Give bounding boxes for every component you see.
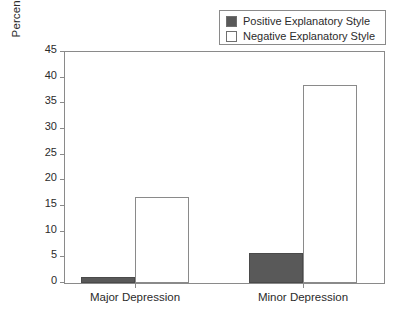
- chart-legend: Positive Explanatory Style Negative Expl…: [219, 10, 386, 45]
- y-axis-title-text: Percent Experiencing Depression: [8, 0, 24, 67]
- x-axis-label-minor-depression: Minor Depression: [233, 291, 373, 304]
- bar-positive-major-depression: [81, 277, 135, 283]
- legend-label-negative: Negative Explanatory Style: [243, 30, 375, 42]
- y-axis-tick-label: 10: [45, 224, 57, 235]
- legend-item-negative: Negative Explanatory Style: [226, 29, 381, 43]
- y-axis-tick-mark: [60, 128, 65, 129]
- x-axis-label-major-depression: Major Depression: [65, 291, 205, 304]
- y-axis-tick-mark: [60, 179, 65, 180]
- y-axis-tick-label: 30: [45, 121, 57, 132]
- y-axis-tick-mark: [60, 256, 65, 257]
- y-axis-tick-mark: [60, 51, 65, 52]
- y-axis-tick-label: 15: [45, 198, 57, 209]
- y-axis-tick-label: 5: [51, 249, 57, 260]
- y-axis-tick-label: 35: [45, 95, 57, 106]
- y-axis-tick-label: 45: [45, 44, 57, 55]
- y-axis-tick-mark: [60, 205, 65, 206]
- y-axis-tick-mark: [60, 102, 65, 103]
- y-axis-tick-label: 25: [45, 147, 57, 158]
- plot-frame: 051015202530354045: [64, 51, 385, 284]
- x-axis-tick-mark: [135, 283, 136, 288]
- bar-negative-minor-depression: [303, 85, 357, 283]
- legend-item-positive: Positive Explanatory Style: [226, 14, 381, 28]
- y-axis-tick-mark: [60, 77, 65, 78]
- open-white-swatch-icon: [226, 31, 237, 42]
- legend-label-positive: Positive Explanatory Style: [243, 15, 370, 27]
- bar-chart-figure: Positive Explanatory Style Negative Expl…: [0, 0, 399, 314]
- y-axis-tick-label: 0: [51, 275, 57, 286]
- y-axis-title: Percent Experiencing Depression: [8, 0, 24, 67]
- x-axis-tick-mark: [303, 283, 304, 288]
- filled-dark-swatch-icon: [226, 16, 237, 27]
- plot-area: 051015202530354045: [65, 52, 384, 283]
- bar-positive-minor-depression: [249, 253, 303, 283]
- y-axis-tick-label: 20: [45, 172, 57, 183]
- y-axis-tick-mark: [60, 154, 65, 155]
- y-axis-tick-mark: [60, 282, 65, 283]
- y-axis-tick-mark: [60, 231, 65, 232]
- y-axis-tick-label: 40: [45, 70, 57, 81]
- bar-negative-major-depression: [135, 197, 189, 283]
